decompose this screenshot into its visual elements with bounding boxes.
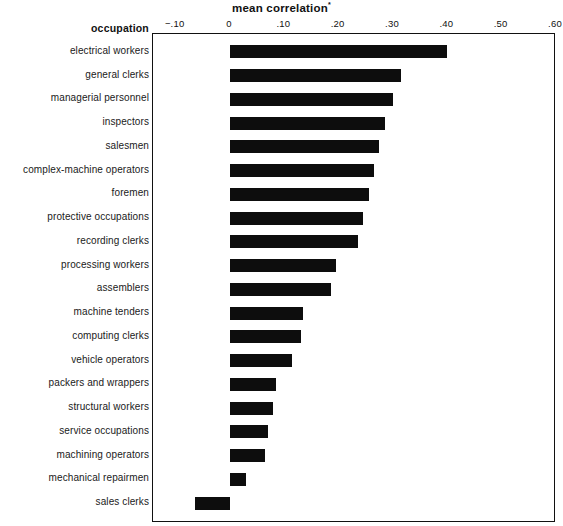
category-label: computing clerks	[0, 330, 149, 341]
bar-row	[153, 159, 554, 183]
chart-title: mean correlation*	[0, 1, 563, 14]
bar-row	[153, 135, 554, 159]
category-label: assemblers	[0, 282, 149, 293]
bar	[230, 117, 385, 130]
x-axis-tick-label: .20	[331, 18, 345, 29]
bar-row	[153, 64, 554, 88]
bar	[230, 93, 393, 106]
bar-row	[153, 206, 554, 230]
category-label: salesmen	[0, 140, 149, 151]
category-label: structural workers	[0, 401, 149, 412]
category-label: foremen	[0, 187, 149, 198]
x-axis-tick-label: 0	[226, 18, 231, 29]
bar-chart-figure: mean correlation* occupation −.100.10.20…	[0, 0, 563, 526]
bar	[230, 212, 363, 225]
bar-row	[153, 420, 554, 444]
bar	[230, 235, 358, 248]
category-label: complex-machine operators	[0, 164, 149, 175]
bar-row	[153, 325, 554, 349]
category-label: machine tenders	[0, 306, 149, 317]
plot-area	[152, 33, 555, 522]
category-label: managerial personnel	[0, 92, 149, 103]
x-axis-tick-label: .30	[385, 18, 399, 29]
bar	[230, 402, 273, 415]
x-axis-tick-label: .40	[439, 18, 453, 29]
bar-row	[153, 491, 554, 515]
bar-row	[153, 183, 554, 207]
bar	[230, 259, 336, 272]
bar	[230, 378, 276, 391]
bar-row	[153, 254, 554, 278]
x-axis-tick-label: .50	[494, 18, 508, 29]
bar	[230, 425, 268, 438]
bar	[230, 140, 379, 153]
category-label: machining operators	[0, 449, 149, 460]
x-axis-tick-label: .60	[548, 18, 562, 29]
category-label: inspectors	[0, 116, 149, 127]
category-label: general clerks	[0, 69, 149, 80]
bar-row	[153, 373, 554, 397]
x-axis: −.100.10.20.30.40.50.60	[152, 18, 563, 34]
chart-title-footnote-marker: *	[328, 1, 331, 8]
category-label: service occupations	[0, 425, 149, 436]
x-axis-tick-label: .10	[276, 18, 290, 29]
bar	[230, 164, 374, 177]
bar-row	[153, 444, 554, 468]
category-label: sales clerks	[0, 496, 149, 507]
bar-row	[153, 88, 554, 112]
category-label: mechanical repairmen	[0, 472, 149, 483]
category-label: processing workers	[0, 259, 149, 270]
category-label: packers and wrappers	[0, 377, 149, 388]
bar-row	[153, 230, 554, 254]
bar	[230, 354, 292, 367]
bar-row	[153, 301, 554, 325]
bar	[230, 449, 265, 462]
bar-row	[153, 278, 554, 302]
category-label: vehicle operators	[0, 354, 149, 365]
bar-row	[153, 349, 554, 373]
category-label: electrical workers	[0, 45, 149, 56]
bar	[230, 45, 447, 58]
bar	[230, 283, 331, 296]
bar-row	[153, 111, 554, 135]
bar	[230, 307, 303, 320]
bar	[230, 188, 369, 201]
category-label: recording clerks	[0, 235, 149, 246]
category-label: protective occupations	[0, 211, 149, 222]
bar	[230, 473, 246, 486]
x-axis-tick-label: −.10	[165, 18, 185, 29]
bar-row	[153, 40, 554, 64]
bar	[230, 69, 401, 82]
bar	[195, 497, 230, 510]
bar-row	[153, 468, 554, 492]
bar	[230, 330, 301, 343]
occupation-column-header: occupation	[0, 22, 149, 34]
bar-row	[153, 396, 554, 420]
chart-title-text: mean correlation	[232, 2, 328, 14]
